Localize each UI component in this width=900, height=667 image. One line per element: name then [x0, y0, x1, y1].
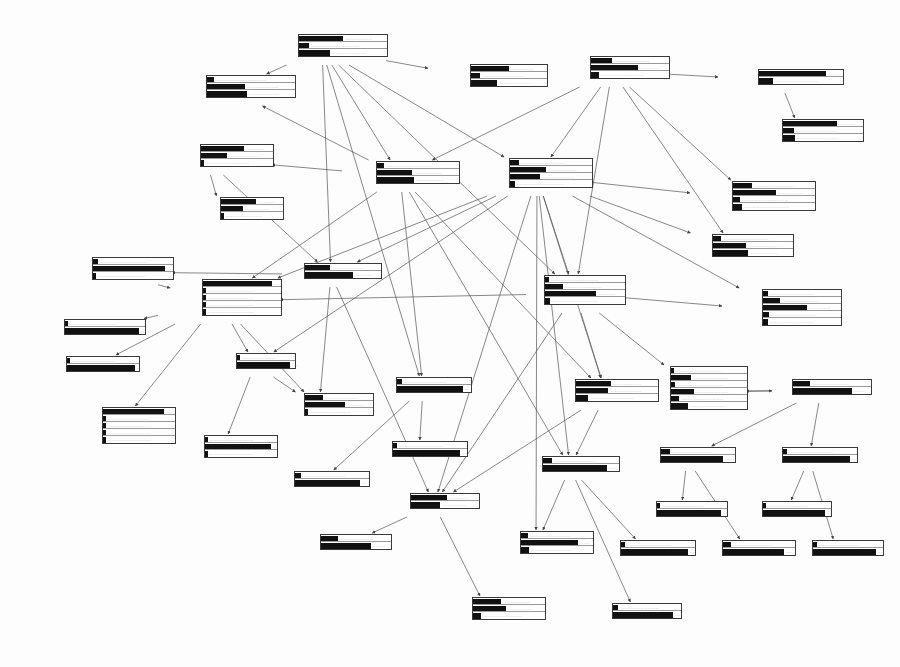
node-circumf[interactable]: ........................................: [718, 68, 844, 85]
bar-fill: [93, 259, 98, 264]
edge-necrosis-to-gastro-necrosis: [320, 287, 329, 392]
bar-fill: [763, 298, 780, 303]
node-lapa-truncus[interactable]: .................................: [592, 602, 682, 619]
state-label-column: [676, 234, 712, 257]
node-metas-loco[interactable]: .................................: [390, 492, 480, 509]
node-metas-lungs[interactable]: ....................................: [762, 446, 858, 463]
node-haema-metas[interactable]: .....................................: [772, 378, 872, 395]
bar-row: ..............................: [471, 72, 547, 79]
bar-row: ...............: [411, 494, 479, 501]
node-endosono-truncus[interactable]: ........................................…: [480, 530, 594, 554]
node-lapa-liver[interactable]: ..................................: [636, 500, 728, 517]
node-bronchoscopy[interactable]: .......................................: [42, 318, 146, 335]
probability-bars: ........................................…: [376, 161, 460, 184]
bar-fill: [545, 284, 563, 289]
node-body: ........................................…: [342, 161, 460, 184]
bar-row: ....: [813, 548, 883, 555]
node-endosono-loco[interactable]: ........................................…: [432, 596, 546, 620]
bar-value-text: ...........................: [690, 402, 727, 409]
bar-value-text: ...............................: [797, 134, 839, 141]
node-gastro-circumf[interactable]: ........................................…: [740, 118, 864, 142]
bar-row: ........: [759, 70, 843, 77]
node-gastro-location[interactable]: ........................................…: [168, 74, 296, 98]
state-label-column: [592, 603, 612, 619]
bar-row: ................................: [591, 71, 669, 78]
bar-fill: [67, 365, 135, 371]
edge-invasion-organs-to-bronchoscopy: [144, 315, 158, 318]
bar-row: ...................................: [545, 276, 625, 283]
node-ct-truncus[interactable]: ....................................: [600, 539, 696, 556]
network-diagram-canvas: ........................................…: [0, 0, 900, 667]
node-physical-exam[interactable]: ....................................: [372, 440, 468, 457]
node-ct-organs[interactable]: ........................................…: [60, 406, 176, 444]
node-ct-loco[interactable]: .................................: [300, 533, 392, 550]
node-type[interactable]: ........................................…: [140, 143, 274, 167]
bar-fill: [203, 288, 206, 293]
bar-fill: [576, 395, 588, 401]
bar-row: ..............: [591, 64, 669, 71]
bar-fill: [543, 465, 607, 471]
node-endosono-wall[interactable]: ........................................…: [722, 288, 842, 326]
node-invasion-organs[interactable]: ........................................…: [158, 278, 282, 316]
node-length[interactable]: ........................................…: [556, 55, 670, 79]
node-lapa-diaphragm[interactable]: ....................................: [46, 355, 140, 372]
node-biopsy[interactable]: ........................................…: [160, 196, 284, 220]
bar-row: .............................: [723, 541, 795, 548]
bar-value-text: .....: [166, 408, 173, 415]
bar-fill: [93, 266, 165, 271]
node-stage[interactable]: ........................................…: [648, 365, 748, 410]
bar-fill: [473, 613, 481, 619]
node-x-fistula[interactable]: ........................................…: [168, 434, 278, 458]
state-label-column: [432, 597, 472, 620]
node-metas-cervix[interactable]: ...................................: [376, 376, 472, 393]
probability-bars: ........................................…: [544, 275, 626, 305]
node-ct-lungs[interactable]: ..................................: [792, 539, 884, 556]
node-lymph-metas[interactable]: ........................................…: [555, 378, 659, 402]
bar-row: ....: [65, 327, 145, 334]
bar-fill: [733, 183, 752, 188]
node-gastro-length[interactable]: ........................................…: [690, 180, 816, 211]
node-necrosis[interactable]: ....................................: [282, 262, 382, 279]
edge-passage-to-gastro-length: [591, 182, 690, 193]
node-shape[interactable]: ........................................…: [258, 33, 388, 57]
node-fistula[interactable]: .............................: [216, 352, 296, 369]
node-ct-liver[interactable]: ..................................: [702, 539, 796, 556]
bar-fill: [763, 312, 769, 317]
bar-fill: [671, 396, 679, 401]
node-invasion-wall[interactable]: ........................................…: [526, 274, 626, 305]
node-metas-liver[interactable]: ...................................: [640, 446, 736, 463]
node-sono-cervix[interactable]: ...................................: [272, 470, 370, 487]
bar-value-text: ....: [167, 265, 172, 272]
probability-bars: ........................................…: [298, 34, 388, 57]
node-endosono-mediast[interactable]: ........................................…: [48, 256, 174, 280]
bar-row: ....: [205, 443, 277, 450]
bar-fill: [321, 543, 371, 549]
bar-value-text: ...............................: [681, 395, 723, 402]
probability-bars: ........................................…: [712, 234, 794, 257]
state-label-column: [792, 540, 812, 556]
bar-row: ..................: [221, 205, 283, 212]
bar-row: ........................: [510, 173, 592, 180]
bar-value-text: ..................: [245, 205, 270, 212]
edge-length-to-weightloss: [623, 87, 723, 233]
bar-fill: [295, 473, 301, 478]
probability-bars: .................................: [612, 603, 682, 619]
node-weightloss[interactable]: ........................................…: [676, 233, 794, 257]
probability-bars: ........................................…: [472, 597, 546, 620]
bar-row: ....: [67, 364, 139, 371]
bar-row: .......................: [305, 394, 373, 401]
state-label-column: [556, 56, 590, 79]
bar-value-text: ................................: [590, 394, 634, 401]
probability-bars: ........................................…: [782, 119, 864, 142]
node-passage[interactable]: ........................................…: [483, 157, 593, 188]
node-gastro-shape[interactable]: ........................................…: [428, 63, 548, 87]
node-location[interactable]: ........................................…: [342, 160, 460, 184]
bar-value-text: ....................: [345, 35, 372, 42]
bar-row: ..........................: [671, 374, 747, 381]
bar-fill: [733, 204, 742, 210]
node-gastro-necrosis[interactable]: ........................................…: [266, 392, 374, 416]
node-x-lungs[interactable]: .................................: [742, 500, 832, 517]
node-metas-truncus[interactable]: ....................................: [522, 455, 620, 472]
bar-row: ................................: [576, 394, 658, 401]
bar-row: .........: [793, 387, 871, 394]
